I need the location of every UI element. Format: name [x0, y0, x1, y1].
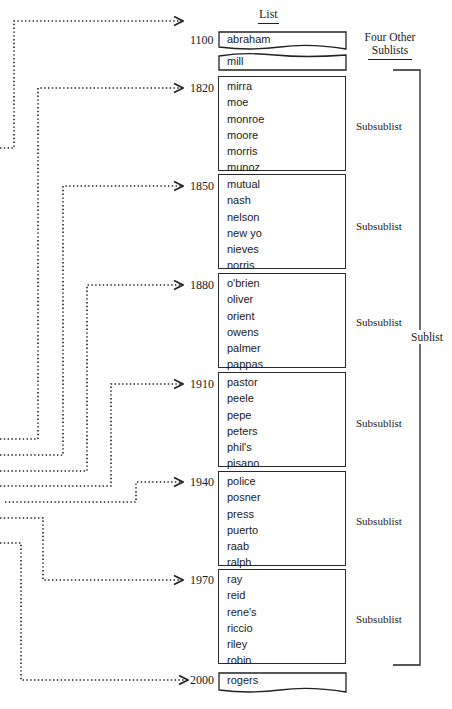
subsublist-box-1910: pastor peele pepe peters phil's pisano	[218, 372, 346, 467]
subsublist-label: Subsublist	[356, 613, 402, 625]
key-1850: 1850	[190, 179, 220, 194]
list-item: press	[219, 506, 345, 522]
other-sublists-line2: Sublists	[368, 44, 412, 60]
gap-box: mill	[218, 52, 348, 72]
list-item: rogers	[227, 674, 258, 686]
subsublist-label: Subsublist	[356, 120, 402, 132]
list-item: palmer	[219, 340, 345, 356]
list-item: peters	[219, 423, 345, 439]
list-item: ray	[219, 571, 345, 587]
list-item: nash	[219, 192, 345, 208]
pointer-1100	[0, 21, 183, 148]
list-item: moe	[219, 94, 345, 110]
pointer-1820	[0, 88, 183, 439]
list-item: police	[219, 473, 345, 489]
list-item: moore	[219, 127, 345, 143]
pointer-2000	[0, 543, 188, 680]
list-item: morris	[219, 143, 345, 159]
list-item: new yo	[219, 225, 345, 241]
list-item: phil's	[219, 439, 345, 455]
subsublist-label: Subsublist	[356, 515, 402, 527]
list-item: peele	[219, 390, 345, 406]
list-item: nieves	[219, 241, 345, 257]
other-sublists-label: Four Other Sublists	[357, 31, 423, 60]
list-title: List	[258, 7, 279, 24]
list-item: pastor	[219, 374, 345, 390]
subsublist-label: Subsublist	[356, 417, 402, 429]
head-box: abraham	[218, 30, 348, 50]
other-sublists-line1: Four Other	[357, 31, 423, 44]
list-item: reid	[219, 587, 345, 603]
subsublist-label: Subsublist	[356, 220, 402, 232]
list-item: riccio	[219, 620, 345, 636]
list-item: nelson	[219, 209, 345, 225]
pointer-1940	[5, 482, 183, 502]
list-item: monroe	[219, 111, 345, 127]
list-item: pappas	[219, 356, 345, 372]
list-item: mirra	[219, 78, 345, 94]
list-item: owens	[219, 324, 345, 340]
subsublist-box-1880: o'brien oliver orient owens palmer pappa…	[218, 273, 346, 368]
list-item: puerto	[219, 522, 345, 538]
list-item: pepe	[219, 407, 345, 423]
list-item: mill	[227, 55, 244, 67]
list-item: robin	[219, 652, 345, 668]
sublist-bracket	[393, 70, 420, 665]
key-1880: 1880	[190, 278, 220, 293]
list-item: oliver	[219, 291, 345, 307]
sublist-label: Sublist	[411, 330, 443, 344]
list-item: norris	[219, 257, 345, 273]
key-1820: 1820	[190, 81, 220, 96]
subsublist-box-1820: mirra moe monroe moore morris munoz	[218, 76, 346, 171]
list-item: pisano	[219, 455, 345, 471]
subsublist-label: Subsublist	[356, 316, 402, 328]
pointer-1970	[0, 518, 183, 580]
list-item: abraham	[227, 33, 270, 45]
list-item: riley	[219, 636, 345, 652]
list-item: mutual	[219, 176, 345, 192]
list-item: o'brien	[219, 275, 345, 291]
pointer-1880	[0, 285, 183, 471]
key-2000: 2000	[190, 673, 220, 688]
list-item: posner	[219, 489, 345, 505]
subsublist-box-1850: mutual nash nelson new yo nieves norris	[218, 174, 346, 269]
list-item: orient	[219, 308, 345, 324]
key-1100: 1100	[190, 33, 220, 48]
tail-box: rogers	[218, 671, 348, 691]
key-1970: 1970	[190, 573, 220, 588]
list-item: raab	[219, 538, 345, 554]
key-1940: 1940	[190, 475, 220, 490]
pointer-1850	[0, 186, 183, 455]
subsublist-box-1970: ray reid rene's riccio riley robin	[218, 569, 346, 664]
list-item: rene's	[219, 604, 345, 620]
subsublist-box-1940: police posner press puerto raab ralph	[218, 471, 346, 566]
key-1910: 1910	[190, 377, 220, 392]
